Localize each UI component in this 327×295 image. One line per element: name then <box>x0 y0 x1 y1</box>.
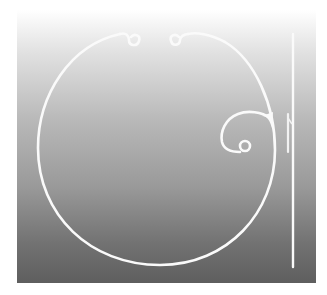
ring-diagram <box>0 0 327 295</box>
inner-curl-hook <box>222 112 270 152</box>
top-right-eyelet <box>171 34 188 45</box>
ring-loop <box>38 33 275 265</box>
side-profile-view <box>288 34 293 267</box>
top-left-eyelet <box>120 33 139 45</box>
curl-eyelet <box>240 141 250 151</box>
